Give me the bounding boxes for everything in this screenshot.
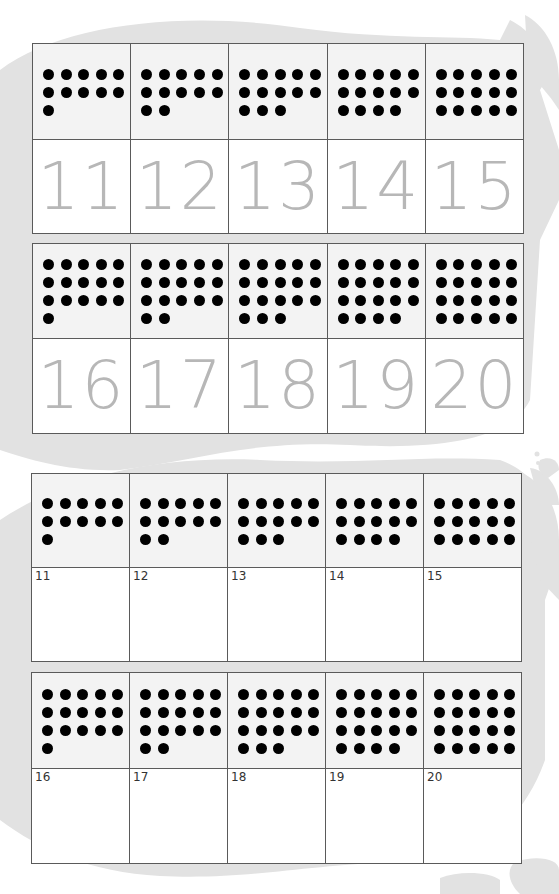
dot — [390, 259, 401, 270]
number-card: 16 — [31, 768, 130, 864]
dot-card — [31, 672, 130, 769]
dot — [239, 87, 250, 98]
dot — [389, 516, 400, 527]
dot — [291, 725, 302, 736]
dot — [210, 743, 221, 754]
dot — [408, 313, 419, 324]
dot — [436, 259, 447, 270]
dot — [308, 725, 319, 736]
dot — [238, 498, 249, 509]
dot — [389, 725, 400, 736]
dot — [96, 259, 107, 270]
dot — [140, 707, 151, 718]
dot — [338, 87, 349, 98]
numeral-label: 14 — [329, 570, 344, 582]
dot-array — [42, 689, 123, 754]
number-card: 13 — [228, 139, 327, 234]
dot-card — [129, 672, 228, 769]
dot — [113, 295, 124, 306]
dot — [434, 534, 445, 545]
labeled-cards-grid-1: 1112131415 — [31, 473, 521, 661]
dot — [257, 259, 268, 270]
dot — [504, 534, 515, 545]
dot — [436, 313, 447, 324]
dot — [355, 87, 366, 98]
traced-numeral: 14 — [328, 140, 425, 233]
tracing-cards-grid-1: 1112131415 — [32, 43, 523, 233]
dot — [113, 277, 124, 288]
dot — [113, 259, 124, 270]
number-card: 12 — [129, 567, 228, 662]
dot-array — [43, 69, 124, 116]
traced-numeral: 13 — [229, 140, 326, 233]
dot — [273, 743, 284, 754]
dot — [159, 313, 170, 324]
dot — [239, 105, 250, 116]
dot — [77, 689, 88, 700]
dot — [275, 313, 286, 324]
dot — [469, 534, 480, 545]
dot — [471, 313, 482, 324]
dot — [238, 534, 249, 545]
dot — [487, 498, 498, 509]
dot — [113, 69, 124, 80]
dot — [504, 725, 515, 736]
dot — [239, 313, 250, 324]
number-card: 16 — [32, 338, 131, 434]
dot — [61, 259, 72, 270]
dot — [43, 105, 54, 116]
dot — [371, 743, 382, 754]
dot — [176, 277, 187, 288]
dot — [95, 725, 106, 736]
dot — [308, 534, 319, 545]
number-card: 12 — [130, 139, 229, 234]
dot — [434, 689, 445, 700]
dot — [506, 105, 517, 116]
dot — [194, 259, 205, 270]
dot — [390, 313, 401, 324]
dot — [96, 295, 107, 306]
dot — [159, 87, 170, 98]
dot — [275, 277, 286, 288]
dot — [310, 295, 321, 306]
dot — [389, 743, 400, 754]
dot — [308, 707, 319, 718]
dot — [141, 259, 152, 270]
dot — [504, 689, 515, 700]
dot — [487, 725, 498, 736]
dot — [176, 69, 187, 80]
dot — [96, 313, 107, 324]
dot — [408, 105, 419, 116]
dot — [78, 259, 89, 270]
dot — [354, 743, 365, 754]
dot — [389, 534, 400, 545]
dot — [112, 743, 123, 754]
dot — [141, 295, 152, 306]
dot — [112, 534, 123, 545]
dot — [471, 277, 482, 288]
dot-array — [336, 689, 417, 754]
dot — [176, 313, 187, 324]
dot — [308, 689, 319, 700]
dot — [390, 69, 401, 80]
dot — [373, 277, 384, 288]
dot — [336, 725, 347, 736]
dot-card — [129, 473, 228, 568]
dot — [489, 69, 500, 80]
dot — [60, 498, 71, 509]
number-card: 13 — [227, 567, 326, 662]
traced-numeral: 12 — [131, 140, 228, 233]
dot-card — [325, 672, 424, 769]
dot — [453, 69, 464, 80]
dot — [373, 105, 384, 116]
dot — [212, 313, 223, 324]
dot — [389, 707, 400, 718]
dot — [354, 516, 365, 527]
dot — [504, 516, 515, 527]
dot — [338, 69, 349, 80]
dot-card — [228, 43, 327, 140]
dot — [112, 725, 123, 736]
number-card: 11 — [32, 139, 131, 234]
dot — [256, 498, 267, 509]
dot — [408, 295, 419, 306]
